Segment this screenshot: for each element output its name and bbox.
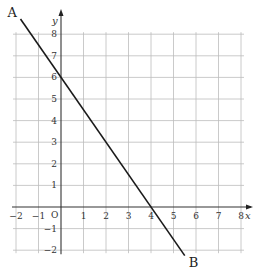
x-tick-label: −1	[32, 211, 45, 221]
x-tick-label: 2	[103, 211, 109, 221]
y-tick-label: 1	[51, 180, 57, 190]
x-tick-label: 7	[216, 211, 222, 221]
x-tick-label: 6	[193, 211, 199, 221]
point-b-label: B	[189, 255, 199, 270]
y-tick-label: 7	[51, 51, 57, 61]
y-axis-arrow-icon	[59, 9, 64, 16]
y-tick-label: 4	[51, 116, 57, 126]
point-a-label: A	[7, 5, 18, 20]
x-tick-label: −2	[9, 211, 22, 221]
x-tick-label: 5	[171, 211, 177, 221]
x-tick-label: 1	[81, 211, 87, 221]
y-tick-label: −2	[44, 245, 57, 255]
x-tick-label: 3	[126, 211, 132, 221]
x-axis-arrow-icon	[246, 205, 253, 210]
y-tick-label: 2	[51, 159, 57, 169]
origin-label: O	[51, 210, 58, 220]
x-axis-label: x	[245, 210, 251, 221]
y-tick-label: 3	[51, 137, 57, 147]
y-tick-label: 5	[51, 94, 57, 104]
y-axis-label: y	[51, 15, 58, 26]
y-tick-label: 6	[51, 72, 57, 82]
x-tick-label: 8	[238, 211, 244, 221]
y-tick-label: 8	[51, 29, 57, 39]
x-tick-label: 4	[148, 211, 154, 221]
coordinate-graph: −2−11234567887654321−1−2 A B x y O	[0, 0, 254, 275]
y-tick-label: −1	[44, 224, 57, 234]
